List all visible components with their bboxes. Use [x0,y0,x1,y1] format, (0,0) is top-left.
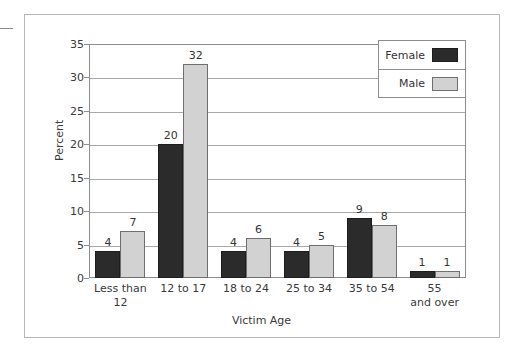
bar-female[interactable] [284,251,309,278]
bar-chart: Percent 05101520253035 47203246459811 Le… [0,0,523,362]
bar-value-label: 4 [221,236,246,249]
y-axis-tick-label: 15 [70,171,84,184]
bar-group: 2032 [154,44,212,278]
bar-group: 46 [217,44,275,278]
y-axis-tick-mark [84,77,89,78]
bar-value-label: 4 [284,236,309,249]
bar-female[interactable] [410,271,435,278]
y-axis-tick-labels: 05101520253035 [59,44,84,278]
bar-male[interactable] [246,238,271,278]
y-axis-tick-label: 10 [70,205,84,218]
y-axis-tick-mark [84,144,89,145]
bar-male[interactable] [120,231,145,278]
bar-value-label: 20 [158,129,183,142]
x-axis-title: Victim Age [0,314,523,327]
bar-value-label: 32 [183,49,208,62]
y-axis-tick-mark [84,178,89,179]
y-axis-tick-mark [84,211,89,212]
bar-male[interactable] [309,245,334,278]
x-axis-tick-label-line: 55 [397,282,473,296]
bar-value-label: 6 [246,223,271,236]
x-axis-tick-label-line: 12 [82,296,158,310]
bar-male[interactable] [183,64,208,278]
bar-group: 45 [280,44,338,278]
bar-value-label: 4 [95,236,120,249]
bar-value-label: 8 [372,210,397,223]
chart-legend: Female Male [378,40,466,98]
bar-male[interactable] [435,271,460,278]
bar-value-label: 7 [120,216,145,229]
legend-item-male[interactable]: Male [379,69,465,97]
legend-label-male: Male [399,77,425,90]
x-axis-tick-label: 55and over [397,282,473,310]
bar-value-label: 1 [410,256,435,269]
legend-item-female[interactable]: Female [379,41,465,69]
bar-value-label: 1 [435,256,460,269]
bar-female[interactable] [158,144,183,278]
bar-value-label: 9 [347,203,372,216]
y-axis-tick-mark [84,245,89,246]
bar-female[interactable] [95,251,120,278]
legend-label-female: Female [385,49,425,62]
chart-page: Percent 05101520253035 47203246459811 Le… [0,0,523,362]
x-axis-tick-label-line: and over [397,296,473,310]
y-axis-tick-label: 20 [70,138,84,151]
y-axis-tick-mark [84,111,89,112]
bar-group: 47 [91,44,149,278]
bar-female[interactable] [221,251,246,278]
y-axis-tick-label: 35 [70,38,84,51]
bar-value-label: 5 [309,230,334,243]
y-axis-tick-label: 25 [70,104,84,117]
bar-female[interactable] [347,218,372,278]
y-axis-tick-label: 30 [70,71,84,84]
y-axis-tick-label: 5 [77,238,84,251]
bar-male[interactable] [372,225,397,278]
y-axis-tick-mark [84,278,89,279]
y-axis-tick-mark [84,44,89,45]
male-swatch-icon [432,77,458,91]
female-swatch-icon [432,48,458,62]
